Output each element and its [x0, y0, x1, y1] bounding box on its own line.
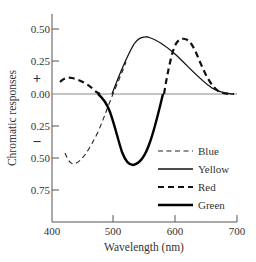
svg-text:400: 400 [44, 225, 61, 237]
svg-text:Blue: Blue [198, 145, 219, 157]
minus-sign: – [33, 133, 42, 148]
x-ticks [113, 215, 237, 222]
svg-text:0.25: 0.25 [31, 55, 51, 67]
series-red-right [164, 39, 234, 94]
svg-text:0.50: 0.50 [31, 23, 51, 35]
series-blue [65, 62, 126, 164]
chromatic-response-chart: 0.50 0.25 0.00 0.25 0.50 0.75 + – 400 50… [0, 0, 256, 262]
svg-text:Red: Red [198, 181, 216, 193]
plus-sign: + [33, 71, 41, 86]
legend: Blue Yellow Red Green [158, 145, 229, 211]
series-red [60, 78, 100, 94]
x-axis-label: Wavelength (nm) [104, 241, 184, 254]
y-ticks [52, 29, 59, 190]
svg-text:0.75: 0.75 [31, 184, 51, 196]
svg-text:700: 700 [229, 225, 246, 237]
svg-text:600: 600 [167, 225, 184, 237]
y-tick-labels: 0.50 0.25 0.00 0.25 0.50 0.75 [31, 23, 51, 196]
y-axis-label: Chromatic responses [6, 69, 19, 166]
svg-text:0.00: 0.00 [31, 88, 51, 100]
svg-text:0.50: 0.50 [31, 152, 51, 164]
series-yellow [112, 37, 232, 94]
svg-text:Yellow: Yellow [198, 163, 229, 175]
svg-text:500: 500 [105, 225, 122, 237]
series-green [98, 94, 163, 165]
x-tick-labels: 400 500 600 700 [44, 225, 246, 237]
svg-text:0.25: 0.25 [31, 120, 51, 132]
svg-text:Green: Green [198, 199, 225, 211]
